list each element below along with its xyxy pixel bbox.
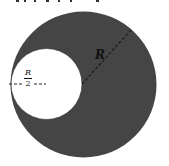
cropped-header-remnant [16, 0, 99, 2]
label-r-over-2: R 2 [23, 69, 33, 88]
fraction-denominator: 2 [23, 80, 33, 88]
fraction-numerator: R [23, 69, 33, 77]
label-r: R [95, 48, 105, 62]
